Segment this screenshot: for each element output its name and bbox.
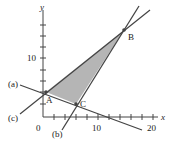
y-tick-label-10: 10 xyxy=(27,53,37,63)
vertex-b-dot xyxy=(122,28,126,32)
origin-label: 0 xyxy=(36,123,41,133)
y-axis-label: y xyxy=(39,2,44,12)
vertex-a-label: A xyxy=(46,95,53,105)
line-b-label: (b) xyxy=(52,129,63,139)
vertex-b-label: B xyxy=(128,32,134,42)
line-c-label: (c) xyxy=(8,113,18,123)
line-b xyxy=(62,6,139,130)
vertex-a-dot xyxy=(44,90,48,94)
vertex-c-label: C xyxy=(80,99,86,109)
feasible-region-diagram: y x 10 0 10 20 (a) (b) (c) A B C xyxy=(0,0,178,143)
x-tick-label-20: 20 xyxy=(147,123,157,133)
x-tick-label-10: 10 xyxy=(92,123,102,133)
vertex-c-dot xyxy=(74,102,78,106)
x-axis-label: x xyxy=(160,112,165,122)
line-a-label: (a) xyxy=(8,79,18,89)
